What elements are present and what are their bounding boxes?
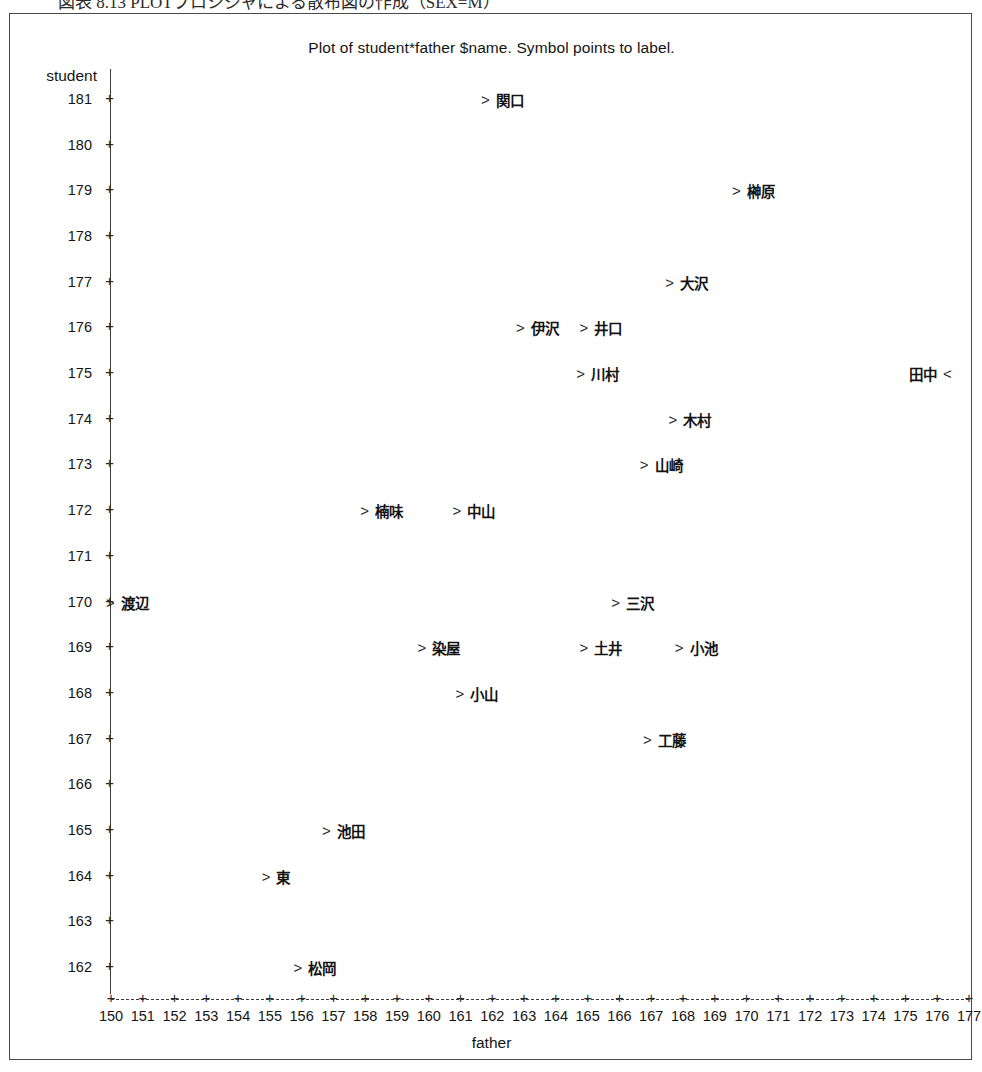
x-tick-label: 177 — [957, 1008, 981, 1024]
x-tick-mark: + — [424, 992, 433, 1007]
scatter-point[interactable]: 田中< — [909, 363, 952, 384]
scatter-point[interactable]: >小山 — [456, 682, 499, 703]
scatter-point[interactable]: >伊沢 — [516, 317, 559, 338]
x-tick-label: 168 — [671, 1008, 695, 1024]
y-tick-mark: + — [105, 411, 114, 426]
scatter-point[interactable]: >染屋 — [417, 637, 460, 658]
x-tick-mark: + — [806, 992, 815, 1007]
point-marker-right-arrow-icon: > — [322, 821, 331, 838]
x-tick-label: 173 — [830, 1008, 854, 1024]
point-label: 大沢 — [680, 271, 708, 292]
x-tick-mark: + — [520, 992, 529, 1007]
x-tick-label: 156 — [290, 1008, 314, 1024]
x-tick-label: 169 — [703, 1008, 727, 1024]
point-marker-right-arrow-icon: > — [640, 456, 649, 473]
point-label: 染屋 — [432, 637, 460, 658]
x-tick-label: 160 — [417, 1008, 441, 1024]
figure-caption: 図表 8.13 PLOTプロシジャによる散布図の作成（SEX=M） — [58, 0, 500, 13]
scatter-point[interactable]: >松岡 — [293, 957, 336, 978]
scatter-point[interactable]: >三沢 — [611, 591, 654, 612]
x-tick-label: 176 — [925, 1008, 949, 1024]
scatter-point[interactable]: >土井 — [579, 637, 622, 658]
x-axis-title: father — [10, 1034, 973, 1052]
y-tick-mark: + — [105, 92, 114, 107]
y-tick-label: 165 — [30, 822, 92, 838]
x-tick-mark: + — [742, 992, 751, 1007]
y-tick-mark: + — [105, 457, 114, 472]
scatter-point[interactable]: >池田 — [322, 819, 365, 840]
point-label: 木村 — [683, 408, 711, 429]
point-label: 東 — [276, 865, 290, 886]
y-tick-label: 169 — [30, 639, 92, 655]
x-tick-label: 151 — [131, 1008, 155, 1024]
point-marker-right-arrow-icon: > — [481, 91, 490, 108]
y-axis-spine — [110, 69, 111, 994]
y-tick-mark: + — [105, 137, 114, 152]
scatter-point[interactable]: >小池 — [675, 637, 718, 658]
x-tick-mark: + — [138, 992, 147, 1007]
x-tick-mark: + — [837, 992, 846, 1007]
x-tick-mark: + — [456, 992, 465, 1007]
scatter-point[interactable]: >渡辺 — [106, 591, 149, 612]
x-tick-label: 161 — [448, 1008, 472, 1024]
y-tick-label: 164 — [30, 868, 92, 884]
point-label: 松岡 — [308, 957, 336, 978]
point-marker-right-arrow-icon: > — [516, 319, 525, 336]
x-tick-mark: + — [170, 992, 179, 1007]
x-tick-label: 170 — [734, 1008, 758, 1024]
y-tick-mark: + — [105, 366, 114, 381]
y-tick-mark: + — [105, 685, 114, 700]
point-marker-right-arrow-icon: > — [262, 867, 271, 884]
y-tick-mark: + — [105, 731, 114, 746]
scatter-point[interactable]: >井口 — [579, 317, 622, 338]
y-tick-mark: + — [105, 822, 114, 837]
point-label: 工藤 — [658, 728, 686, 749]
y-tick-mark: + — [105, 320, 114, 335]
scatter-point[interactable]: >中山 — [452, 500, 495, 521]
point-marker-right-arrow-icon: > — [611, 593, 620, 610]
point-label: 小池 — [690, 637, 718, 658]
scatter-point[interactable]: >木村 — [668, 408, 711, 429]
x-tick-mark: + — [774, 992, 783, 1007]
scatter-point[interactable]: >山崎 — [640, 454, 683, 475]
point-label: 川村 — [591, 363, 619, 384]
point-label: 井口 — [594, 317, 622, 338]
x-tick-mark: + — [329, 992, 338, 1007]
scatter-point[interactable]: >楠味 — [360, 500, 403, 521]
y-tick-label: 180 — [30, 137, 92, 153]
point-marker-left-arrow-icon: < — [943, 365, 952, 382]
point-marker-right-arrow-icon: > — [668, 410, 677, 427]
x-tick-mark: + — [678, 992, 687, 1007]
x-tick-mark: + — [901, 992, 910, 1007]
y-tick-label: 178 — [30, 228, 92, 244]
point-marker-right-arrow-icon: > — [452, 502, 461, 519]
x-tick-label: 152 — [162, 1008, 186, 1024]
scatter-point[interactable]: >工藤 — [643, 728, 686, 749]
screenshot-page: 図表 8.13 PLOTプロシジャによる散布図の作成（SEX=M） Plot o… — [0, 0, 982, 1072]
point-marker-right-arrow-icon: > — [675, 639, 684, 656]
point-label: 池田 — [337, 819, 365, 840]
scatter-point[interactable]: >東 — [262, 865, 291, 886]
point-marker-right-arrow-icon: > — [360, 502, 369, 519]
plot-title: Plot of student*father $name. Symbol poi… — [10, 39, 973, 57]
x-tick-label: 162 — [480, 1008, 504, 1024]
y-tick-label: 168 — [30, 685, 92, 701]
scatter-point[interactable]: >川村 — [576, 363, 619, 384]
x-tick-mark: + — [202, 992, 211, 1007]
scatter-point[interactable]: >榊原 — [732, 180, 775, 201]
x-tick-mark: + — [297, 992, 306, 1007]
x-tick-mark: + — [488, 992, 497, 1007]
scatter-point[interactable]: >大沢 — [665, 271, 708, 292]
x-tick-mark: + — [106, 992, 115, 1007]
x-tick-label: 158 — [353, 1008, 377, 1024]
point-label: 中山 — [467, 500, 495, 521]
point-label: 田中 — [909, 363, 937, 384]
scatter-point[interactable]: >関口 — [481, 89, 524, 110]
point-label: 小山 — [470, 682, 498, 703]
x-tick-label: 154 — [226, 1008, 250, 1024]
x-tick-label: 157 — [321, 1008, 345, 1024]
point-marker-right-arrow-icon: > — [293, 959, 302, 976]
x-tick-label: 174 — [862, 1008, 886, 1024]
y-axis-title: student — [27, 67, 97, 85]
figure-caption-strip: 図表 8.13 PLOTプロシジャによる散布図の作成（SEX=M） — [0, 0, 982, 13]
